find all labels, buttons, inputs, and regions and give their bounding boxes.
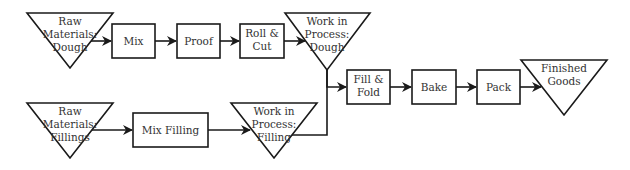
- node-label-line: Roll &: [245, 27, 279, 39]
- node-label-line: Filling: [257, 131, 291, 143]
- node-label-line: Fill &: [353, 73, 383, 85]
- node-label-line: Raw: [58, 15, 81, 27]
- node-label-line: Process:: [305, 28, 350, 40]
- node-label-line: Dough: [310, 41, 345, 53]
- node-proof: Proof: [177, 24, 220, 58]
- node-label-line: Fillings: [50, 131, 90, 143]
- node-label-line: Cut: [252, 40, 272, 52]
- node-label-line: Dough: [53, 41, 88, 53]
- node-fill-fold: Fill & Fold: [347, 70, 390, 104]
- node-label-line: Proof: [184, 35, 214, 47]
- node-bake: Bake: [412, 70, 456, 104]
- process-flow-diagram: Raw Materials: Dough Mix Proof Roll & Cu…: [0, 0, 630, 170]
- node-label-line: Pack: [486, 81, 512, 93]
- node-label-line: Mix: [123, 35, 143, 47]
- node-label-line: Work in: [253, 105, 294, 117]
- node-label-line: Materials:: [43, 118, 97, 130]
- node-label-line: Finished: [541, 62, 587, 74]
- node-label-line: Fold: [357, 86, 380, 98]
- node-mix: Mix: [112, 24, 155, 58]
- node-pack: Pack: [477, 70, 520, 104]
- node-label-line: Mix Filling: [142, 124, 200, 136]
- node-roll-cut: Roll & Cut: [240, 24, 284, 58]
- node-label-line: Goods: [547, 75, 580, 87]
- edge-wip-to-fill-fold: [327, 70, 346, 87]
- node-mix-filling: Mix Filling: [133, 113, 208, 147]
- node-label-line: Process:: [252, 118, 297, 130]
- node-label-line: Bake: [421, 81, 448, 93]
- node-label-line: Work in: [306, 15, 347, 27]
- node-label-line: Raw: [58, 105, 81, 117]
- node-label-line: Materials:: [43, 28, 97, 40]
